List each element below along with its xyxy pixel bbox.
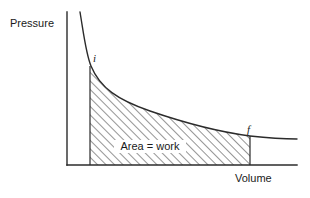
pv-diagram-figure: Pressure Volume Area = work i f [0,0,310,198]
point-i-label: i [93,52,96,64]
y-axis-label: Pressure [10,17,54,29]
canvas-background [0,0,310,198]
area-work-label: Area = work [121,140,180,152]
x-axis-label: Volume [235,172,272,184]
